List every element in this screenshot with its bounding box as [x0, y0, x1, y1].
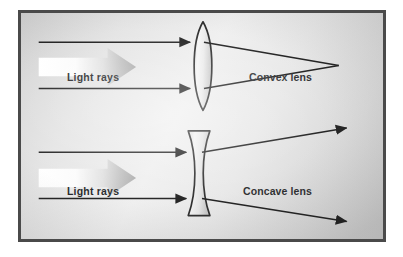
diverging-ray-bottom-1 [202, 128, 347, 152]
concave-panel [39, 128, 347, 222]
convex-lens-label: Convex lens [249, 71, 312, 83]
converging-ray-top-1 [204, 42, 339, 65]
concave-lens-label: Concave lens [243, 185, 312, 197]
light-rays-label-bottom: Light rays [67, 185, 119, 197]
ray-diagram-canvas [21, 13, 383, 239]
convex-panel [39, 22, 339, 111]
convex-lens-icon [194, 22, 212, 111]
figure-root: Convex lens Concave lens Light rays Ligh… [0, 0, 403, 257]
light-rays-label-top: Light rays [67, 71, 119, 83]
diverging-ray-bottom-2 [202, 199, 347, 222]
illustration-plate: Convex lens Concave lens Light rays Ligh… [18, 10, 386, 242]
concave-lens-icon [188, 131, 210, 216]
